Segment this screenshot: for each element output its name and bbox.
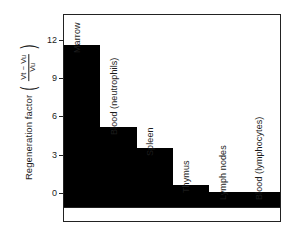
- chart-figure: Regeneration factor ( Vt − Vu Vu ) Marro…: [0, 0, 293, 232]
- tick-mark: [59, 116, 64, 117]
- tick-mark: [59, 40, 64, 41]
- bar-label-blood-neutrophils: Blood (neutrophils): [109, 57, 119, 134]
- plot-inner: MarrowBlood (neutrophils)SpleenThymusLym…: [64, 15, 280, 207]
- bar-spleen: [137, 148, 173, 207]
- bar-label-marrow: Marrow: [72, 22, 82, 53]
- fraction-denominator: Vu: [29, 53, 38, 80]
- tick-mark: [59, 78, 64, 79]
- y-tick-label: 6: [52, 111, 57, 121]
- y-axis-title-rotated: Regeneration factor ( Vt − Vu Vu ): [21, 42, 38, 179]
- y-axis-fraction: Vt − Vu Vu: [21, 52, 38, 81]
- y-axis-title-text: Regeneration factor: [24, 94, 35, 179]
- tick-mark: [59, 155, 64, 156]
- bar-thymus: [173, 185, 209, 207]
- bar-label-blood-lymphocytes: Blood (lymphocytes): [254, 117, 264, 200]
- bar-label-thymus: Thymus: [181, 161, 191, 194]
- y-tick-label: 12: [47, 35, 57, 45]
- y-tick-label: 9: [52, 73, 57, 83]
- y-tick-label: 0: [52, 188, 57, 198]
- bar-label-spleen: Spleen: [145, 128, 155, 157]
- bar-label-lymph-nodes: Lymph nodes: [218, 145, 228, 200]
- y-tick-label: 3: [52, 150, 57, 160]
- x-axis-strip: [63, 208, 281, 222]
- plot-area: MarrowBlood (neutrophils)SpleenThymusLym…: [63, 14, 281, 208]
- y-axis-title: Regeneration factor ( Vt − Vu Vu ): [6, 14, 52, 208]
- tick-mark: [59, 193, 64, 194]
- bar-marrow: [64, 45, 100, 207]
- bar-blood-neutrophils: [100, 127, 136, 207]
